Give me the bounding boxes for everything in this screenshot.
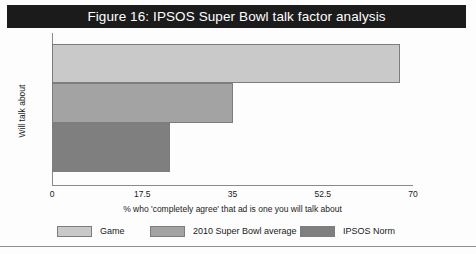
- x-tick-label: 70: [408, 189, 417, 199]
- x-tick-label: 52.5: [314, 189, 331, 199]
- legend-swatch: [300, 226, 335, 237]
- legend-item: Game: [57, 224, 125, 238]
- bar-ipsos-norm: [52, 123, 170, 172]
- legend-item: 2010 Super Bowl average: [150, 224, 297, 238]
- bar-2010-super-bowl-average: [52, 83, 233, 123]
- figure-title: Figure 16: IPSOS Super Bowl talk factor …: [7, 5, 466, 28]
- x-axis-line: [52, 185, 413, 186]
- plot-area: Will talk about 017.53552.570 % who 'com…: [0, 28, 476, 213]
- x-tick-label: 0: [50, 189, 55, 199]
- legend-label: IPSOS Norm: [343, 226, 395, 236]
- x-tick-label: 17.5: [134, 189, 151, 199]
- y-axis-label: Will talk about: [17, 71, 27, 151]
- legend-item: IPSOS Norm: [300, 224, 395, 238]
- x-tick-label: 35: [228, 189, 237, 199]
- legend-label: 2010 Super Bowl average: [193, 226, 297, 236]
- legend-swatch: [150, 226, 185, 237]
- legend-swatch: [57, 226, 92, 237]
- legend-label: Game: [100, 226, 125, 236]
- figure-container: Figure 16: IPSOS Super Bowl talk factor …: [0, 0, 476, 254]
- x-axis-label: % who 'completely agree' that ad is one …: [52, 204, 413, 214]
- chart-legend: Game2010 Super Bowl averageIPSOS Norm: [0, 224, 476, 242]
- bottom-divider: [0, 246, 476, 247]
- bar-game: [52, 44, 400, 83]
